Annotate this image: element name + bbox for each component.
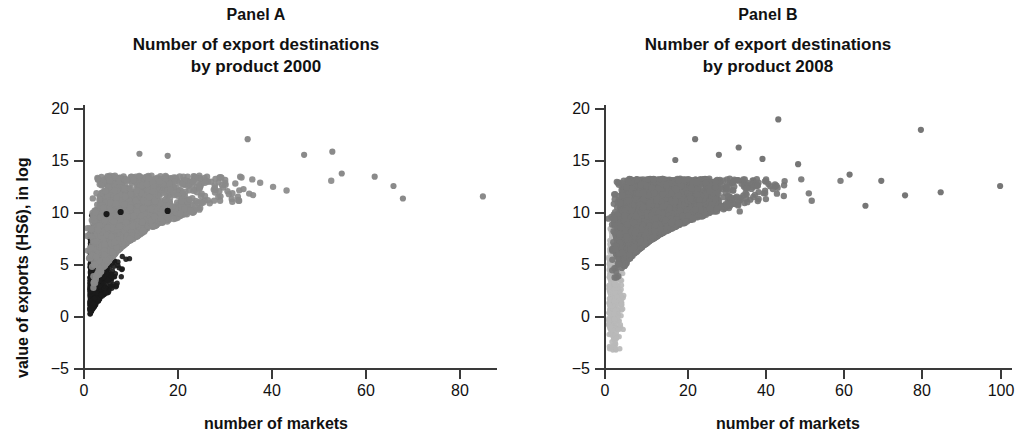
panel-b-y-tick bbox=[595, 316, 604, 318]
panel-b-y-tick bbox=[595, 212, 604, 214]
panel-b-y-tick-label: 5 bbox=[546, 256, 590, 274]
panel-b-x-tick bbox=[765, 370, 767, 379]
panel-b-x-tick-label: 20 bbox=[679, 382, 697, 400]
panel-a: Panel A Number of export destinations by… bbox=[0, 0, 512, 437]
panel-a-x-tick-label: 60 bbox=[357, 382, 375, 400]
panel-b-y-tick-label: 0 bbox=[546, 308, 590, 326]
figure-two-panel-scatter: Panel A Number of export destinations by… bbox=[0, 0, 1024, 437]
panel-b-y-tick bbox=[595, 160, 604, 162]
panel-b-x-tick-label: 0 bbox=[601, 382, 610, 400]
panel-a-scatter-points bbox=[0, 0, 512, 437]
panel-b-x-tick bbox=[604, 370, 606, 379]
panel-a-y-tick bbox=[74, 368, 83, 370]
panel-b-x-tick bbox=[1000, 370, 1002, 379]
panel-b-x-tick-label: 80 bbox=[913, 382, 931, 400]
panel-b-y-axis-line bbox=[604, 105, 606, 370]
panel-b-x-axis-line bbox=[604, 368, 1012, 370]
panel-a-y-tick bbox=[74, 212, 83, 214]
panel-b-x-tick bbox=[687, 370, 689, 379]
panel-b-x-tick-label: 40 bbox=[757, 382, 775, 400]
panel-a-x-axis-line bbox=[83, 368, 497, 370]
panel-a-x-tick-label: 0 bbox=[80, 382, 89, 400]
panel-a-plot-area: 02040608020151050−5 bbox=[0, 0, 512, 437]
panel-a-y-tick-label: 5 bbox=[25, 256, 69, 274]
panel-a-x-tick-label: 20 bbox=[169, 382, 187, 400]
panel-b-x-tick bbox=[921, 370, 923, 379]
panel-a-y-tick-label: −5 bbox=[25, 360, 69, 378]
panel-a-y-tick-label: 20 bbox=[25, 100, 69, 118]
panel-b-y-tick bbox=[595, 108, 604, 110]
panel-a-x-tick-label: 40 bbox=[263, 382, 281, 400]
panel-b-y-tick-label: 15 bbox=[546, 152, 590, 170]
panel-b-plot-area: 02040608010020151050−5 bbox=[512, 0, 1024, 437]
panel-b-x-tick bbox=[843, 370, 845, 379]
panel-a-y-tick-label: 10 bbox=[25, 204, 69, 222]
panel-b-y-tick-label: 20 bbox=[546, 100, 590, 118]
panel-a-y-tick bbox=[74, 160, 83, 162]
panel-b-x-tick-label: 60 bbox=[835, 382, 853, 400]
panel-b-y-tick bbox=[595, 368, 604, 370]
panel-a-y-tick bbox=[74, 316, 83, 318]
panel-a-y-tick bbox=[74, 264, 83, 266]
panel-b: Panel B Number of export destinations by… bbox=[512, 0, 1024, 437]
panel-a-x-tick bbox=[365, 370, 367, 379]
panel-a-y-tick-label: 15 bbox=[25, 152, 69, 170]
panel-b-y-tick bbox=[595, 264, 604, 266]
panel-a-x-tick bbox=[271, 370, 273, 379]
panel-b-x-tick-label: 100 bbox=[988, 382, 1015, 400]
panel-a-x-tick-label: 80 bbox=[451, 382, 469, 400]
panel-a-x-tick bbox=[459, 370, 461, 379]
panel-b-y-tick-label: −5 bbox=[546, 360, 590, 378]
panel-a-y-tick bbox=[74, 108, 83, 110]
panel-b-y-tick-label: 10 bbox=[546, 204, 590, 222]
panel-a-x-tick bbox=[177, 370, 179, 379]
panel-a-y-tick-label: 0 bbox=[25, 308, 69, 326]
panel-a-y-axis-line bbox=[83, 105, 85, 370]
panel-a-x-tick bbox=[83, 370, 85, 379]
